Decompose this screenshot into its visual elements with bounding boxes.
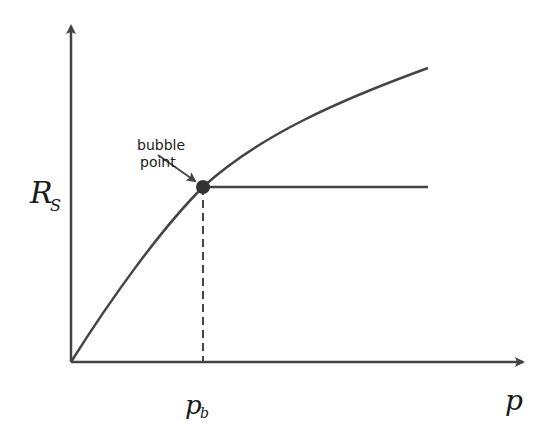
bubble-point-marker <box>196 180 210 194</box>
annotation-line2: point <box>140 154 176 170</box>
rs-vs-pressure-diagram: bubble point R S p b p <box>0 0 550 437</box>
x-axis-label: p <box>505 384 523 417</box>
rs-curve <box>71 68 428 362</box>
y-axis-label-sub: S <box>50 196 61 215</box>
annotation-line1: bubble <box>137 137 185 153</box>
pb-label-sub: b <box>200 405 209 421</box>
